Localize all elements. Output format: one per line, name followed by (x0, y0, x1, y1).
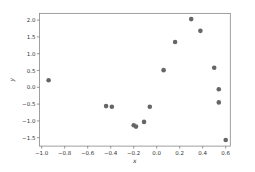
y-tick-label: −0.5 (22, 101, 36, 107)
y-axis-label: y (8, 78, 16, 83)
data-point (104, 104, 109, 109)
data-point (198, 29, 203, 34)
y-tick-label: 0.0 (27, 84, 36, 90)
y-tick-label: −1.5 (22, 135, 36, 141)
x-tick-label: −1.0 (35, 150, 49, 156)
x-axis-ticks: −1.0−0.8−0.6−0.4−0.20.00.20.40.6 (35, 146, 231, 156)
y-tick-label: 1.5 (27, 34, 36, 40)
x-tick-label: −0.8 (58, 150, 72, 156)
x-tick-label: −0.6 (81, 150, 95, 156)
x-tick-label: −0.2 (127, 150, 140, 156)
data-point (212, 66, 217, 71)
x-tick-label: 0.2 (175, 150, 184, 156)
data-point (161, 68, 166, 73)
data-point (110, 104, 115, 109)
y-tick-label: −1.0 (22, 118, 36, 124)
x-axis-label: x (132, 157, 137, 164)
data-point (189, 17, 194, 22)
y-axis-ticks: −1.5−1.0−0.50.00.51.01.52.0 (22, 17, 39, 141)
data-point (142, 120, 147, 125)
x-tick-label: 0.0 (152, 150, 161, 156)
data-point (217, 87, 222, 92)
data-point (134, 124, 139, 129)
x-tick-label: 0.4 (198, 150, 207, 156)
scatter-chart: −1.0−0.8−0.6−0.4−0.20.00.20.40.6 −1.5−1.… (0, 0, 255, 172)
x-tick-label: 0.6 (221, 150, 230, 156)
data-point (173, 40, 178, 45)
y-tick-label: 0.5 (27, 68, 36, 74)
data-point (148, 104, 153, 109)
y-tick-label: 2.0 (27, 17, 36, 23)
data-point (223, 138, 228, 143)
x-tick-label: −0.4 (104, 150, 118, 156)
y-tick-label: 1.0 (27, 51, 36, 57)
data-point (217, 100, 222, 105)
data-point (46, 78, 51, 83)
